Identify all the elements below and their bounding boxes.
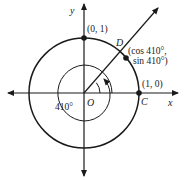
origin-label: O — [87, 97, 94, 108]
point-c-coord: (1, 0) — [142, 79, 163, 90]
y-axis-label: y — [69, 5, 75, 16]
point-d-label: D — [115, 37, 124, 48]
angle-arc-inner — [96, 83, 100, 93]
unit-circle-diagram: y x O (0, 1) D (cos 410°, sin 410°) (1, … — [0, 0, 184, 180]
point-c-label: C — [141, 96, 148, 107]
x-axis-label: x — [167, 97, 173, 108]
point-d-coord-line2: sin 410°) — [133, 56, 168, 67]
point-top — [81, 35, 87, 41]
point-top-label: (0, 1) — [87, 24, 108, 35]
point-c — [136, 90, 142, 96]
angle-label: 410° — [55, 102, 73, 112]
point-d — [123, 55, 129, 61]
